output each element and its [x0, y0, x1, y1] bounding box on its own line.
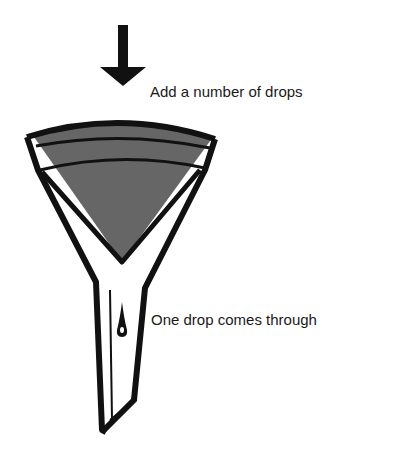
down-arrow-icon	[100, 25, 146, 86]
one-drop-label: One drop comes through	[151, 311, 317, 328]
funnel-icon	[27, 123, 215, 432]
add-drops-label: Add a number of drops	[150, 83, 303, 100]
funnel-diagram	[0, 0, 403, 456]
